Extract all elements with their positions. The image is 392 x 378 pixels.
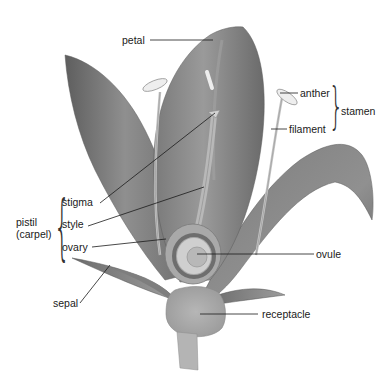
label-filament: filament: [289, 123, 326, 135]
label-sepal: sepal: [53, 297, 78, 309]
label-petal: petal: [122, 34, 145, 46]
stamen-left-anther: [141, 76, 168, 94]
leader-sepal: [80, 265, 110, 303]
brace-pistil: {: [54, 186, 70, 266]
ovule: [187, 247, 207, 267]
stem: [177, 332, 198, 370]
label-receptacle: receptacle: [262, 308, 310, 320]
label-anther: anther: [300, 87, 330, 99]
receptacle: [166, 286, 225, 336]
label-carpel: (carpel): [16, 228, 52, 240]
label-ovule: ovule: [316, 248, 341, 260]
label-pistil: pistil: [16, 216, 37, 228]
stamen-right-anther: [275, 86, 300, 107]
label-stamen: stamen: [341, 105, 375, 117]
